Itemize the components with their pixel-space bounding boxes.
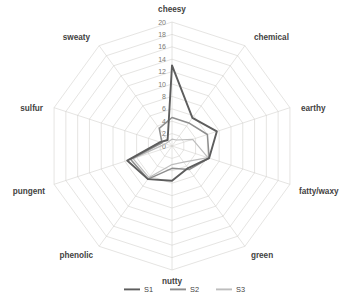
radial-tick-label: 2 xyxy=(162,130,166,137)
legend-label-s1: S1 xyxy=(144,285,153,294)
radial-tick-label: 18 xyxy=(158,31,166,38)
legend-label-s2: S2 xyxy=(190,285,199,294)
radial-tick-label: 12 xyxy=(158,68,166,75)
axis-label-cheesy: cheesy xyxy=(158,5,186,14)
legend-label-s3: S3 xyxy=(236,285,245,294)
radial-tick-label: 20 xyxy=(158,19,166,26)
radial-tick-label: 10 xyxy=(158,81,166,88)
radial-tick-label: 8 xyxy=(162,93,166,100)
radial-tick-label: 16 xyxy=(158,43,166,50)
axis-label-pungent: pungent xyxy=(13,187,46,196)
axis-label-green: green xyxy=(251,251,273,260)
radial-tick-label: 14 xyxy=(158,56,166,63)
chart-legend: S1S2S3 xyxy=(124,285,245,294)
axis-label-earthy: earthy xyxy=(301,104,326,113)
axis-label-phenolic: phenolic xyxy=(59,251,93,260)
radar-chart: 02468101214161820 cheesychemicalearthyfa… xyxy=(0,0,344,306)
axis-label-nutty: nutty xyxy=(162,277,182,286)
axis-label-fatty-waxy: fatty/waxy xyxy=(299,187,339,196)
axis-spoke xyxy=(172,146,245,246)
axis-label-sulfur: sulfur xyxy=(20,104,44,113)
radial-tick-label: 6 xyxy=(162,105,166,112)
axis-label-chemical: chemical xyxy=(254,33,289,42)
radar-chart-svg: 02468101214161820 cheesychemicalearthyfa… xyxy=(0,0,344,306)
axis-label-sweaty: sweaty xyxy=(63,33,91,42)
